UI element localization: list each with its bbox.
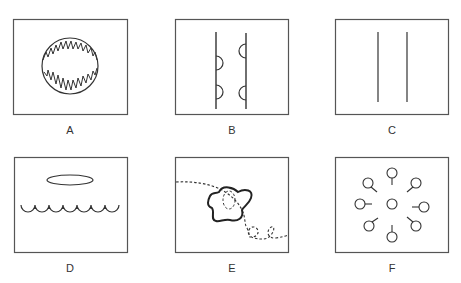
panel-e: E: [150, 140, 310, 283]
panel-d: D: [0, 140, 150, 283]
panel-a-figure: [0, 0, 150, 140]
panel-b-label: B: [212, 124, 252, 136]
panel-c-label: C: [372, 124, 412, 136]
panel-a-label: A: [50, 124, 90, 136]
panel-f-label: F: [372, 262, 412, 274]
panel-d-label: D: [50, 262, 90, 274]
panel-b: B: [150, 0, 310, 140]
panel-f: F: [300, 140, 461, 283]
panel-a: A: [0, 0, 150, 140]
panel-c-figure: [300, 0, 461, 140]
panel-b-figure: [150, 0, 310, 140]
panel-e-label: E: [212, 262, 252, 274]
panel-c: C: [300, 0, 461, 140]
